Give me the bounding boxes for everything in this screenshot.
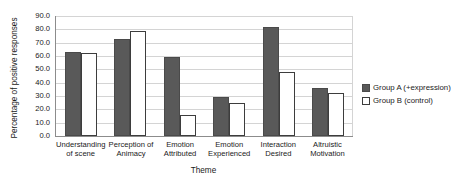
bar <box>81 53 97 136</box>
x-tick-label: EmotionAttributed <box>156 140 205 162</box>
y-tick-label: 40.0 <box>20 79 50 87</box>
bar-group <box>205 16 255 136</box>
y-axis-ticks: 90.080.070.060.050.040.030.020.010.00.0 <box>20 10 50 138</box>
bar <box>164 57 180 136</box>
bar <box>229 103 245 136</box>
y-tick-label: 70.0 <box>20 39 50 47</box>
bar-chart: Percentage of positive responses 90.080.… <box>0 0 474 183</box>
chart-legend: Group A (+expression)Group B (control) <box>362 82 472 108</box>
bar-group <box>56 16 106 136</box>
x-axis-tick-labels: Understandingof scenePerception ofAnimac… <box>55 140 352 162</box>
x-tick-label-line: Experienced <box>206 149 253 158</box>
y-tick-label: 20.0 <box>20 105 50 113</box>
bar <box>213 97 229 136</box>
y-tick-label: 90.0 <box>20 12 50 20</box>
bar <box>328 93 344 136</box>
x-tick-label: Perception ofAnimacy <box>106 140 155 162</box>
bar <box>114 39 130 136</box>
bar-group <box>155 16 205 136</box>
bar <box>279 72 295 136</box>
x-tick-label-line: Attributed <box>157 149 204 158</box>
legend-label: Group A (+expression) <box>373 83 451 92</box>
x-tick-label-line: Perception of <box>107 140 154 149</box>
x-tick-label-line: of scene <box>56 149 105 158</box>
x-axis-title: Theme <box>55 166 352 176</box>
legend-swatch-icon <box>362 97 370 105</box>
x-tick-label-line: Animacy <box>107 149 154 158</box>
bar <box>312 88 328 136</box>
x-tick-label-line: Emotion <box>206 140 253 149</box>
bar <box>65 52 81 136</box>
x-tick-label: InteractionDesired <box>254 140 303 162</box>
legend-item[interactable]: Group A (+expression) <box>362 82 472 93</box>
plot-area <box>55 16 353 137</box>
bar <box>180 115 196 136</box>
bar-groups <box>56 16 353 136</box>
x-tick-label-line: Altruistic <box>304 140 351 149</box>
x-tick-label: AltruisticMotivation <box>303 140 352 162</box>
y-tick-label: 80.0 <box>20 25 50 33</box>
y-tick-label: 50.0 <box>20 65 50 73</box>
bar-group <box>304 16 354 136</box>
x-tick-label-line: Interaction <box>255 140 302 149</box>
x-tick-label: Understandingof scene <box>55 140 106 162</box>
legend-item[interactable]: Group B (control) <box>362 95 472 106</box>
y-tick-label: 10.0 <box>20 119 50 127</box>
x-tick-label-line: Understanding <box>56 140 105 149</box>
bar-group <box>254 16 304 136</box>
x-tick-label-line: Emotion <box>157 140 204 149</box>
x-tick-label-line: Motivation <box>304 149 351 158</box>
y-tick-label: 60.0 <box>20 52 50 60</box>
legend-label: Group B (control) <box>373 96 433 105</box>
legend-swatch-icon <box>362 84 370 92</box>
y-tick-label: 0.0 <box>20 132 50 140</box>
bar <box>263 27 279 136</box>
x-tick-label-line: Desired <box>255 149 302 158</box>
x-tick-label: EmotionExperienced <box>205 140 254 162</box>
y-tick-label: 30.0 <box>20 92 50 100</box>
bar-group <box>106 16 156 136</box>
bar <box>130 31 146 136</box>
